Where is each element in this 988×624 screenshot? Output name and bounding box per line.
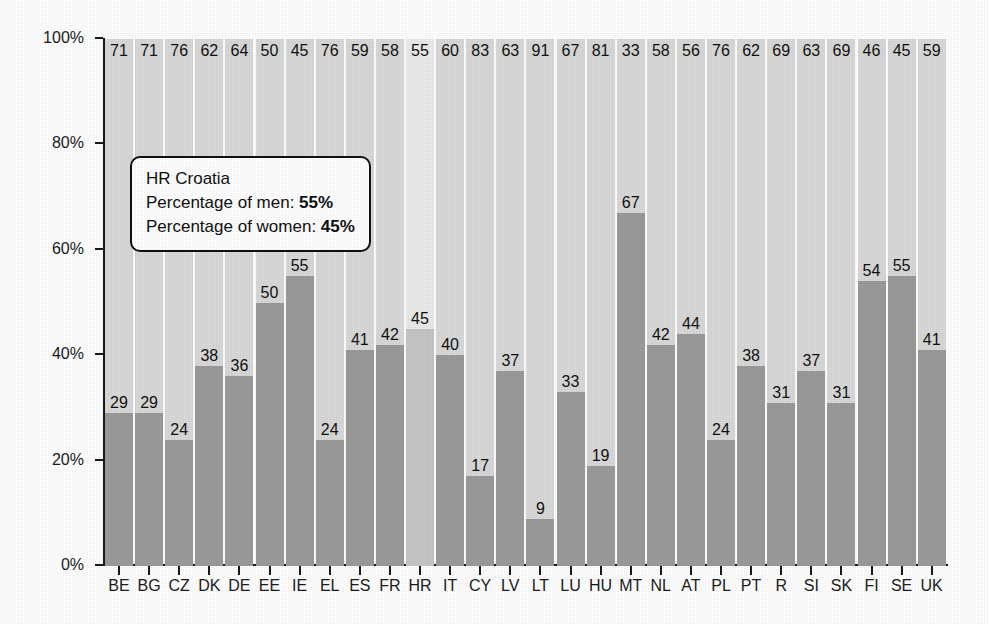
segment-men-r[interactable]: 31 [767,403,795,566]
segment-women-at[interactable]: 56 [677,39,705,334]
segment-men-bg[interactable]: 29 [135,413,163,566]
segment-women-nl[interactable]: 58 [647,39,675,345]
segment-women-fi[interactable]: 46 [858,39,886,281]
bar-column-si[interactable]: 6337 [797,39,825,566]
bar-column-es[interactable]: 5941 [346,39,374,566]
segment-men-lu[interactable]: 33 [557,392,585,566]
bar-column-de[interactable]: 6436 [225,39,253,566]
segment-men-mt[interactable]: 67 [617,213,645,566]
segment-men-it[interactable]: 40 [436,355,464,566]
value-label-women: 62 [742,43,760,59]
value-label-women: 91 [531,43,549,59]
segment-men-el[interactable]: 24 [316,440,344,566]
value-label-men: 37 [802,353,820,369]
segment-men-lv[interactable]: 37 [496,371,524,566]
y-tick-mark [95,459,103,461]
segment-men-hr[interactable]: 45 [406,329,434,566]
value-label-men: 55 [893,258,911,274]
segment-women-mt[interactable]: 33 [617,39,645,213]
y-tick-label: 20% [22,452,84,468]
value-label-women: 62 [200,43,218,59]
bar-column-el[interactable]: 7624 [316,39,344,566]
segment-men-be[interactable]: 29 [105,413,133,566]
x-tick-mark [208,566,210,575]
bar-column-fi[interactable]: 4654 [858,39,886,566]
segment-women-be[interactable]: 71 [105,39,133,413]
segment-women-pt[interactable]: 62 [737,39,765,366]
x-tick-label-uk: UK [912,578,952,594]
bar-column-dk[interactable]: 6238 [195,39,223,566]
segment-women-hr[interactable]: 55 [406,39,434,329]
value-label-men: 24 [321,422,339,438]
segment-women-lv[interactable]: 63 [496,39,524,371]
bar-column-cy[interactable]: 8317 [466,39,494,566]
segment-men-lt[interactable]: 9 [526,519,554,566]
bar-column-it[interactable]: 6040 [436,39,464,566]
tooltip-women-row: Percentage of women: 45% [146,215,355,239]
segment-men-sk[interactable]: 31 [827,403,855,566]
segment-women-cy[interactable]: 83 [466,39,494,476]
segment-women-pl[interactable]: 76 [707,39,735,440]
segment-men-si[interactable]: 37 [797,371,825,566]
segment-women-sk[interactable]: 69 [827,39,855,403]
segment-men-hu[interactable]: 19 [587,466,615,566]
segment-women-it[interactable]: 60 [436,39,464,355]
bar-column-hu[interactable]: 8119 [587,39,615,566]
segment-women-hu[interactable]: 81 [587,39,615,466]
bar-column-ie[interactable]: 4555 [286,39,314,566]
segment-men-at[interactable]: 44 [677,334,705,566]
segment-men-uk[interactable]: 41 [918,350,946,566]
x-tick-mark [118,566,120,575]
value-label-men: 41 [923,332,941,348]
segment-women-uk[interactable]: 59 [918,39,946,350]
bar-column-lt[interactable]: 919 [526,39,554,566]
value-label-women: 69 [832,43,850,59]
x-tick-mark [329,566,331,575]
segment-women-se[interactable]: 45 [888,39,916,276]
stacked-bar-chart: 0%20%40%60%80%100% BEBGCZDKDEEEIEELESFRH… [0,0,988,624]
segment-men-cz[interactable]: 24 [165,440,193,566]
value-label-women: 81 [592,43,610,59]
bar-column-lv[interactable]: 6337 [496,39,524,566]
bar-column-at[interactable]: 5644 [677,39,705,566]
segment-men-dk[interactable]: 38 [195,366,223,566]
segment-men-nl[interactable]: 42 [647,345,675,566]
bar-column-pt[interactable]: 6238 [737,39,765,566]
bar-column-se[interactable]: 4555 [888,39,916,566]
segment-men-pt[interactable]: 38 [737,366,765,566]
value-label-men: 29 [110,395,128,411]
bar-column-mt[interactable]: 3367 [617,39,645,566]
segment-women-fr[interactable]: 58 [376,39,404,345]
segment-women-r[interactable]: 69 [767,39,795,403]
segment-women-lu[interactable]: 67 [557,39,585,392]
bar-column-cz[interactable]: 7624 [165,39,193,566]
segment-men-fi[interactable]: 54 [858,281,886,566]
x-tick-mark [750,566,752,575]
value-label-women: 76 [321,43,339,59]
value-label-women: 76 [170,43,188,59]
bar-column-nl[interactable]: 5842 [647,39,675,566]
x-tick-mark [509,566,511,575]
segment-men-es[interactable]: 41 [346,350,374,566]
segment-men-ie[interactable]: 55 [286,276,314,566]
y-tick-label: 40% [22,346,84,362]
bar-column-r[interactable]: 6931 [767,39,795,566]
bar-column-hr[interactable]: 5545 [406,39,434,566]
segment-men-fr[interactable]: 42 [376,345,404,566]
segment-men-ee[interactable]: 50 [256,303,284,567]
bar-column-be[interactable]: 7129 [105,39,133,566]
segment-men-cy[interactable]: 17 [466,476,494,566]
bar-column-uk[interactable]: 5941 [918,39,946,566]
segment-women-si[interactable]: 63 [797,39,825,371]
bar-column-fr[interactable]: 5842 [376,39,404,566]
bar-column-lu[interactable]: 6733 [557,39,585,566]
bar-column-ee[interactable]: 5050 [256,39,284,566]
segment-men-de[interactable]: 36 [225,376,253,566]
bar-column-pl[interactable]: 7624 [707,39,735,566]
segment-men-pl[interactable]: 24 [707,440,735,566]
x-tick-mark [570,566,572,575]
bar-column-bg[interactable]: 7129 [135,39,163,566]
bar-column-sk[interactable]: 6931 [827,39,855,566]
segment-women-lt[interactable]: 91 [526,39,554,519]
segment-men-se[interactable]: 55 [888,276,916,566]
